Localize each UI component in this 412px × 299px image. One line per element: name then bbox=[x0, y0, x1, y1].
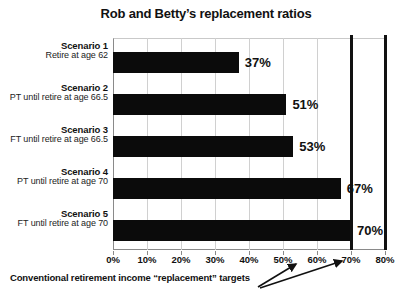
bar-value-label: 53% bbox=[293, 136, 325, 157]
bar-4 bbox=[113, 178, 341, 199]
category-sublabel: FT until retire at age 66.5 bbox=[0, 135, 108, 145]
bar-row: 70% bbox=[113, 210, 385, 252]
bar-1 bbox=[113, 52, 239, 73]
category-label-5: Scenario 5FT until retire at age 70 bbox=[0, 209, 108, 229]
x-tick-label: 30% bbox=[205, 254, 224, 265]
bar-value-label: 70% bbox=[351, 220, 383, 241]
bar-value-label: 51% bbox=[286, 94, 318, 115]
category-label-2: Scenario 2PT until retire at age 66.5 bbox=[0, 83, 108, 103]
plot-area: 37%51%53%67%70% bbox=[113, 38, 385, 250]
reference-line-80 bbox=[384, 35, 387, 250]
bar-row: 67% bbox=[113, 168, 385, 210]
category-label-1: Scenario 1Retire at age 62 bbox=[0, 41, 108, 61]
category-sublabel: Retire at age 62 bbox=[0, 51, 108, 61]
category-sublabel: PT until retire at age 66.5 bbox=[0, 93, 108, 103]
category-label-4: Scenario 4PT until retire at age 70 bbox=[0, 167, 108, 187]
chart-title: Rob and Betty’s replacement ratios bbox=[0, 6, 412, 21]
bar-row: 37% bbox=[113, 42, 385, 84]
annotation-arrows bbox=[250, 258, 400, 294]
chart-container: Rob and Betty’s replacement ratios 37%51… bbox=[0, 0, 412, 299]
annotation-label: Conventional retirement income “replacem… bbox=[10, 272, 250, 283]
bar-row: 51% bbox=[113, 84, 385, 126]
bar-3 bbox=[113, 136, 293, 157]
bar-row: 53% bbox=[113, 126, 385, 168]
bar-value-label: 67% bbox=[341, 178, 373, 199]
x-tick-label: 0% bbox=[106, 254, 120, 265]
x-tick-label: 10% bbox=[137, 254, 156, 265]
bar-value-label: 37% bbox=[239, 52, 271, 73]
category-sublabel: PT until retire at age 70 bbox=[0, 177, 108, 187]
bar-5 bbox=[113, 220, 351, 241]
reference-line-70 bbox=[350, 35, 353, 250]
category-sublabel: FT until retire at age 70 bbox=[0, 219, 108, 229]
category-label-3: Scenario 3FT until retire at age 66.5 bbox=[0, 125, 108, 145]
x-tick-label: 20% bbox=[171, 254, 190, 265]
bar-2 bbox=[113, 94, 286, 115]
